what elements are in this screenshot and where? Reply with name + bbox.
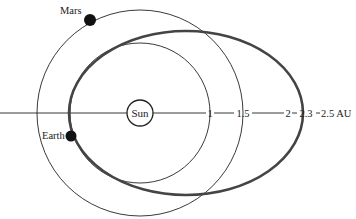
tick-1-5: 1.5 <box>236 108 249 119</box>
mars-icon <box>84 14 96 26</box>
tick-2: 2 <box>285 108 290 119</box>
tick-2-3: 2.3 <box>299 108 312 119</box>
earth-icon <box>66 131 77 142</box>
sun-label: Sun <box>131 107 149 119</box>
earth-label: Earth <box>42 130 65 141</box>
orbit-diagram: Sun Earth Mars 1 1.5 2 2.3 2.5 AU <box>0 0 356 219</box>
mars-label: Mars <box>60 5 82 16</box>
tick-2-5-au: 2.5 AU <box>321 108 352 119</box>
tick-1: 1 <box>207 108 212 119</box>
